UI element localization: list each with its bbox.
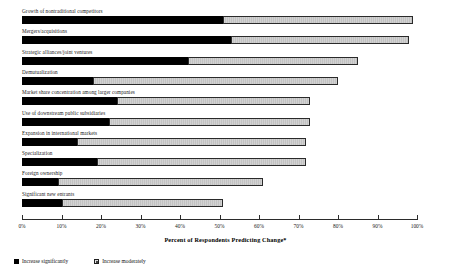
bar-segment-increase-significantly <box>22 118 109 126</box>
category-label: Significant new entrants <box>22 191 74 198</box>
x-axis-tick-label: 50% <box>205 222 235 230</box>
x-axis-tick-label: 60% <box>244 222 274 230</box>
category-label: Specialization <box>22 150 53 157</box>
x-axis-tick-label: 20% <box>86 222 116 230</box>
solid-black-square-icon <box>14 259 19 264</box>
bar-segment-increase-moderately <box>109 118 310 126</box>
bar-track <box>22 118 417 126</box>
bar-track <box>22 77 417 85</box>
bar-track <box>22 57 417 65</box>
bar-track <box>22 138 417 146</box>
horizontal-stacked-bar-chart: Growth of nontraditional competitorsMerg… <box>0 0 451 280</box>
bar-segment-increase-moderately <box>188 57 358 65</box>
x-axis-title: Percent of Respondents Predicting Change… <box>0 236 451 243</box>
bar-segment-increase-moderately <box>58 178 263 186</box>
bar-track <box>22 36 417 44</box>
chart-legend: Increase significantly Increase moderate… <box>14 258 172 265</box>
bar-segment-increase-moderately <box>62 199 224 207</box>
bar-track <box>22 16 417 24</box>
bar-track <box>22 199 417 207</box>
x-axis-tick <box>220 215 221 220</box>
legend-item-increase-significantly: Increase significantly <box>14 258 68 265</box>
x-axis-tick-label: 90% <box>363 222 393 230</box>
x-axis-tick-label: 40% <box>165 222 195 230</box>
x-axis-tick <box>101 215 102 220</box>
bar-segment-increase-significantly <box>22 158 97 166</box>
bar-segment-increase-significantly <box>22 57 188 65</box>
x-axis-tick <box>338 215 339 220</box>
bar-track <box>22 97 417 105</box>
plot-area: Growth of nontraditional competitorsMerg… <box>22 8 417 213</box>
bar-segment-increase-moderately <box>223 16 413 24</box>
bar-segment-increase-moderately <box>77 138 306 146</box>
bar-segment-increase-moderately <box>117 97 311 105</box>
x-axis-tick-label: 80% <box>323 222 353 230</box>
x-axis-tick-label: 70% <box>284 222 314 230</box>
bar-segment-increase-moderately <box>97 158 306 166</box>
bar-track <box>22 158 417 166</box>
category-label: Demutualization <box>22 69 58 76</box>
bar-segment-increase-significantly <box>22 16 223 24</box>
x-axis-tick <box>378 215 379 220</box>
category-label: Strategic alliances/joint ventures <box>22 49 92 56</box>
bar-segment-increase-moderately <box>231 36 409 44</box>
category-label: Market share concentration among larger … <box>22 89 135 96</box>
bar-segment-increase-significantly <box>22 97 117 105</box>
x-axis-tick-label: 10% <box>47 222 77 230</box>
x-axis-tick <box>22 215 23 220</box>
x-axis-tick-label: 30% <box>126 222 156 230</box>
x-axis-tick <box>141 215 142 220</box>
category-label: Foreign ownership <box>22 170 62 177</box>
x-axis-tick <box>259 215 260 220</box>
category-label: Use of downstream public subsidiaries <box>22 110 105 117</box>
bar-track <box>22 178 417 186</box>
legend-item-increase-moderately: Increase moderately <box>94 258 146 265</box>
category-label: Growth of nontraditional competitors <box>22 8 103 15</box>
legend-label-increase-moderately: Increase moderately <box>102 258 146 265</box>
x-axis-tick <box>180 215 181 220</box>
bar-segment-increase-significantly <box>22 36 231 44</box>
x-axis-tick-label: 100% <box>402 222 432 230</box>
x-axis-tick-label: 0% <box>7 222 37 230</box>
category-label: Mergers/acquisitions <box>22 28 67 35</box>
bar-segment-increase-moderately <box>93 77 338 85</box>
legend-label-increase-significantly: Increase significantly <box>22 258 68 265</box>
x-axis-tick <box>299 215 300 220</box>
category-label: Expansion in international markets <box>22 130 97 137</box>
x-axis-tick <box>417 215 418 220</box>
bar-segment-increase-significantly <box>22 199 62 207</box>
x-axis-tick <box>62 215 63 220</box>
hatched-square-icon <box>94 259 99 264</box>
bar-segment-increase-significantly <box>22 77 93 85</box>
bar-segment-increase-significantly <box>22 178 58 186</box>
bar-segment-increase-significantly <box>22 138 77 146</box>
